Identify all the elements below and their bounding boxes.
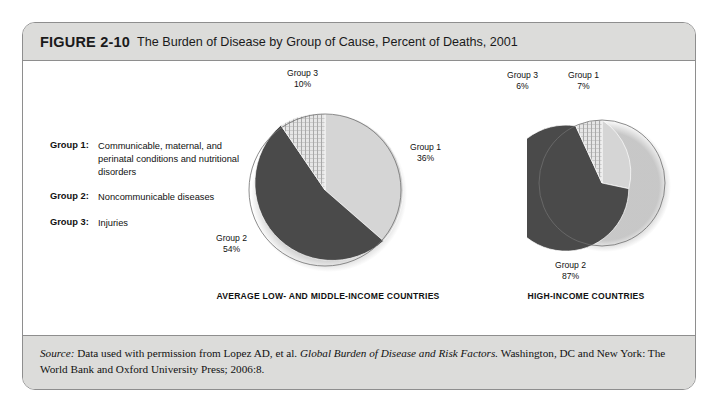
figure-source-footer: Source: Data used with permission from L…	[23, 335, 695, 389]
slice-label-low-group-1-percent: 36%	[410, 153, 441, 164]
slice-label-low-group-3-percent: 10%	[287, 79, 318, 90]
slice-label-high-group-1-percent: 7%	[568, 81, 599, 92]
legend-key-group-3: Group 3:	[50, 217, 98, 230]
slice-label-high-group-3: Group 3 6%	[507, 70, 538, 93]
slice-label-low-group-1-name: Group 1	[410, 142, 441, 152]
legend-description-group-2: Noncommunicable diseases	[98, 191, 214, 204]
pie-caption-high-income: HIGH-INCOME COUNTRIES	[471, 291, 696, 301]
pie-svg-low-middle-income	[237, 102, 415, 280]
slice-label-high-group-2-percent: 87%	[555, 271, 586, 282]
slice-label-low-group-2-percent: 54%	[216, 244, 247, 255]
legend-key-group-2: Group 2:	[50, 191, 98, 204]
figure-title: The Burden of Disease by Group of Cause,…	[137, 35, 518, 49]
figure-body: Group 1: Communicable, maternal, and per…	[23, 62, 695, 336]
slice-label-low-group-2: Group 2 54%	[216, 233, 247, 256]
figure-card: FIGURE 2-10 The Burden of Disease by Gro…	[22, 22, 696, 390]
pie-chart-high-income: Group 3 6% Group 1 7% Group 2 87% HIGH-I…	[471, 62, 696, 336]
pie-chart-low-middle-income: Group 3 10% Group 1 36% Group 2 54% AVER…	[203, 62, 453, 336]
source-label: Source:	[40, 347, 74, 359]
slice-label-low-group-3-name: Group 3	[287, 68, 318, 78]
source-text: Source: Data used with permission from L…	[40, 345, 679, 377]
slice-label-high-group-1-name: Group 1	[568, 70, 599, 80]
figure-header: FIGURE 2-10 The Burden of Disease by Gro…	[23, 23, 695, 61]
source-work-title: Global Burden of Disease and Risk Factor…	[300, 347, 498, 359]
pie-graphic-low-middle-income	[237, 102, 415, 284]
slice-label-high-group-2: Group 2 87%	[555, 260, 586, 283]
pie-svg-high-income	[527, 108, 677, 258]
pie-graphic-high-income	[527, 108, 677, 262]
pie-caption-low-middle-income: AVERAGE LOW- AND MIDDLE-INCOME COUNTRIES	[203, 291, 453, 301]
slice-label-high-group-2-name: Group 2	[555, 260, 586, 270]
source-text-before: Data used with permission from Lopez AD,…	[74, 347, 300, 359]
slice-label-low-group-3: Group 3 10%	[287, 68, 318, 91]
slice-label-low-group-2-name: Group 2	[216, 233, 247, 243]
legend-description-group-3: Injuries	[98, 217, 128, 230]
figure-number: FIGURE 2-10	[40, 34, 130, 50]
slice-label-low-group-1: Group 1 36%	[410, 142, 441, 165]
slice-label-high-group-3-name: Group 3	[507, 70, 538, 80]
legend-key-group-1: Group 1:	[50, 140, 98, 178]
slice-label-high-group-1: Group 1 7%	[568, 70, 599, 93]
slice-label-high-group-3-percent: 6%	[507, 81, 538, 92]
